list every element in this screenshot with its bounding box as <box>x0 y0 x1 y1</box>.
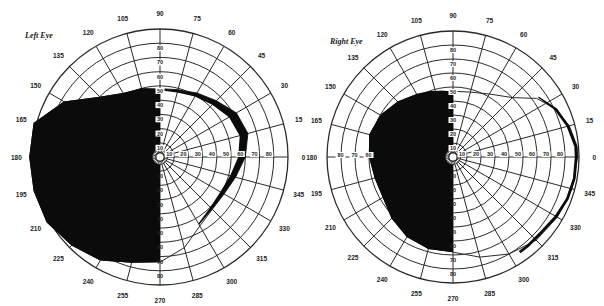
radial-label-30: 30 <box>157 116 163 122</box>
visual-field-figure: 0153045607590105120135150165180195210225… <box>0 0 604 306</box>
radial-label-70: 70 <box>450 61 456 67</box>
angle-label-285: 285 <box>484 290 495 297</box>
meridian-300 <box>164 164 224 268</box>
radial-label-40: 40 <box>209 151 215 157</box>
angle-label-240: 240 <box>377 276 388 283</box>
right-eye-label: Right Eye <box>330 37 363 46</box>
right-eye-perimetry-chart: 0153045607590105120135150165180195210225… <box>306 12 596 302</box>
radial-label-10: 10 <box>450 173 456 179</box>
angle-label-30: 30 <box>281 82 289 89</box>
radial-label-50: 50 <box>223 151 229 157</box>
radial-label-40: 40 <box>501 151 507 157</box>
angle-label-255: 255 <box>411 290 422 297</box>
radial-label-70: 70 <box>252 151 258 157</box>
meridian-315 <box>166 163 251 248</box>
radial-label-10: 10 <box>157 173 163 179</box>
angle-label-90: 90 <box>156 10 164 17</box>
radial-label-80: 80 <box>266 151 272 157</box>
angle-label-345: 345 <box>293 191 304 198</box>
angle-label-75: 75 <box>194 15 202 22</box>
radial-label-60: 60 <box>157 74 163 80</box>
angle-label-165: 165 <box>16 116 27 123</box>
angle-label-330: 330 <box>570 224 581 231</box>
angle-label-180: 180 <box>11 154 22 161</box>
radial-label-20: 20 <box>157 187 163 193</box>
radial-label-60: 60 <box>450 75 456 81</box>
angle-label-30: 30 <box>572 83 580 90</box>
angle-label-150: 150 <box>30 82 41 89</box>
angle-label-0: 0 <box>593 154 597 161</box>
radial-label-40: 40 <box>450 103 456 109</box>
angle-label-165: 165 <box>311 117 322 124</box>
radial-label-20: 20 <box>180 151 186 157</box>
angle-label-270: 270 <box>448 295 459 302</box>
radial-label-80: 80 <box>450 271 456 277</box>
angle-label-60: 60 <box>228 29 236 36</box>
angle-label-285: 285 <box>192 292 203 299</box>
radial-label-40: 40 <box>157 102 163 108</box>
radial-label-70: 70 <box>157 59 163 65</box>
radial-label-30: 30 <box>450 117 456 123</box>
radial-label-20: 20 <box>450 187 456 193</box>
radial-label-10: 10 <box>157 145 163 151</box>
angle-label-135: 135 <box>348 54 359 61</box>
radial-label-60: 60 <box>157 244 163 250</box>
scotoma-defect-fill <box>29 88 160 262</box>
radial-label-10: 10 <box>459 151 465 157</box>
angle-label-120: 120 <box>83 29 94 36</box>
angle-label-90: 90 <box>449 12 457 19</box>
radial-label-40: 40 <box>450 215 456 221</box>
angle-label-60: 60 <box>520 31 528 38</box>
radial-label-70: 70 <box>157 259 163 265</box>
radial-label-80: 80 <box>157 273 163 279</box>
radial-label-30: 30 <box>487 151 493 157</box>
angle-label-225: 225 <box>53 255 64 262</box>
radial-label-50: 50 <box>450 89 456 95</box>
angle-label-180: 180 <box>306 154 317 161</box>
radial-label-60: 60 <box>237 151 243 157</box>
radial-label-50: 50 <box>515 151 521 157</box>
radial-label-70: 70 <box>543 151 549 157</box>
radial-label-10: 10 <box>450 145 456 151</box>
angle-label-45: 45 <box>258 52 266 59</box>
radial-label-20: 20 <box>450 131 456 137</box>
radial-label-80: 80 <box>557 151 563 157</box>
angle-label-135: 135 <box>53 52 64 59</box>
radial-label-60: 60 <box>529 151 535 157</box>
angle-label-105: 105 <box>411 17 422 24</box>
radial-label-80: 80 <box>157 45 163 51</box>
radial-label-30: 30 <box>450 201 456 207</box>
angle-label-15: 15 <box>295 116 303 123</box>
radial-label-10: 10 <box>166 151 172 157</box>
svg-text:60: 60 <box>365 152 371 158</box>
meridian-330 <box>167 161 271 221</box>
angle-label-300: 300 <box>226 278 237 285</box>
meridian-300 <box>457 164 516 266</box>
radial-label-50: 50 <box>157 230 163 236</box>
radial-label-40: 40 <box>157 216 163 222</box>
radial-label-60: 60 <box>450 243 456 249</box>
radial-label-70: 70 <box>450 257 456 263</box>
angle-label-195: 195 <box>311 190 322 197</box>
radial-label-20: 20 <box>473 151 479 157</box>
angle-label-45: 45 <box>549 54 557 61</box>
meridian-45 <box>458 68 542 152</box>
crescent-defect <box>519 97 578 254</box>
radial-label-30: 30 <box>195 151 201 157</box>
radial-label-20: 20 <box>157 131 163 137</box>
radial-label-50: 50 <box>450 229 456 235</box>
angle-label-195: 195 <box>16 191 27 198</box>
angle-label-315: 315 <box>256 255 267 262</box>
angle-label-225: 225 <box>348 254 359 261</box>
angle-label-315: 315 <box>548 254 559 261</box>
angle-label-240: 240 <box>83 278 94 285</box>
meridian-45 <box>166 66 251 151</box>
meridian-330 <box>460 161 562 220</box>
left-eye-perimetry-chart: 0153045607590105120135150165180195210225… <box>11 10 306 304</box>
left-eye-label: Left Eye <box>25 31 53 40</box>
angle-label-150: 150 <box>325 83 336 90</box>
angle-label-330: 330 <box>279 225 290 232</box>
radial-label-50: 50 <box>157 88 163 94</box>
meridian-60 <box>457 48 516 150</box>
svg-text:80: 80 <box>337 152 343 158</box>
